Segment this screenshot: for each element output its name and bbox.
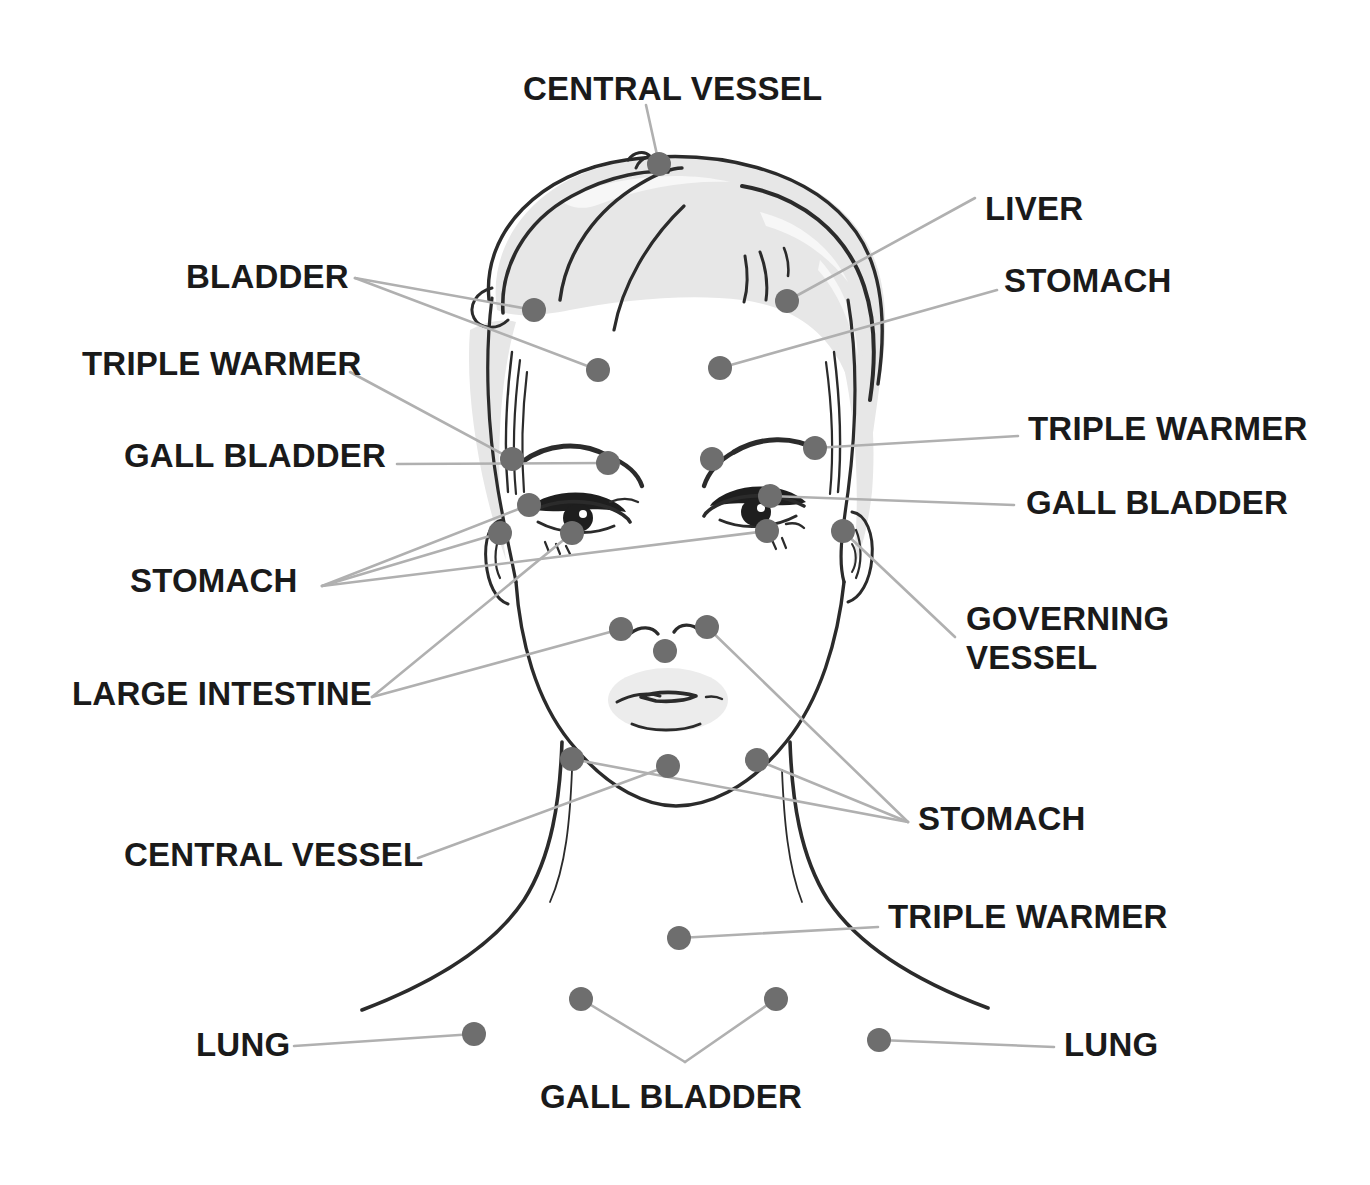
acupressure-point-dot[interactable] (700, 447, 724, 471)
acupressure-point-dot[interactable] (586, 358, 610, 382)
acupressure-point-dot[interactable] (764, 987, 788, 1011)
lips (608, 668, 728, 732)
acupressure-point-dot[interactable] (560, 747, 584, 771)
leader-line (707, 627, 908, 822)
acupressure-point-dot[interactable] (488, 521, 512, 545)
leader-line (685, 999, 776, 1062)
leader-line (372, 629, 621, 697)
leader-line (879, 1040, 1054, 1047)
acupressure-point-dot[interactable] (708, 356, 732, 380)
acupressure-point-dot[interactable] (695, 615, 719, 639)
acupressure-point-dot[interactable] (596, 451, 620, 475)
point-label-central-vessel-top: CENTRAL VESSEL (523, 70, 822, 109)
point-label-governing-vessel: GOVERNING VESSEL (966, 600, 1226, 678)
point-label-gall-bladder-bottom: GALL BLADDER (540, 1078, 802, 1117)
acupressure-point-dot[interactable] (560, 521, 584, 545)
acupressure-point-dot[interactable] (653, 639, 677, 663)
nose (631, 625, 700, 634)
acupressure-point-dot[interactable] (755, 519, 779, 543)
point-label-large-intestine: LARGE INTESTINE (72, 675, 372, 714)
leader-line (757, 760, 908, 822)
point-label-triple-warmer-left: TRIPLE WARMER (82, 345, 361, 384)
point-label-lung-left: LUNG (196, 1026, 290, 1065)
point-label-lung-right: LUNG (1064, 1026, 1158, 1065)
diagram-canvas: CENTRAL VESSELLIVERBLADDERSTOMACHTRIPLE … (0, 0, 1370, 1185)
acupressure-point-dot[interactable] (758, 484, 782, 508)
point-label-bladder: BLADDER (186, 258, 349, 297)
leader-line (679, 927, 878, 938)
acupressure-point-dot[interactable] (775, 289, 799, 313)
acupressure-point-dot[interactable] (517, 493, 541, 517)
leader-line (418, 766, 668, 858)
acupressure-point-dot[interactable] (462, 1022, 486, 1046)
point-label-triple-warmer-right: TRIPLE WARMER (1028, 410, 1307, 449)
acupressure-point-dot[interactable] (867, 1028, 891, 1052)
acupressure-point-dot[interactable] (745, 748, 769, 772)
acupressure-point-dot[interactable] (656, 754, 680, 778)
point-label-triple-warmer-chest: TRIPLE WARMER (888, 898, 1167, 937)
acupressure-point-dot[interactable] (569, 987, 593, 1011)
leader-line (322, 533, 500, 586)
point-label-gall-bladder-left: GALL BLADDER (124, 437, 386, 476)
leader-line (770, 496, 1014, 505)
point-label-stomach-upper-right: STOMACH (1004, 262, 1172, 301)
leader-line (843, 531, 955, 637)
neck-and-shoulders (362, 742, 988, 1010)
point-label-stomach-lower-right: STOMACH (918, 800, 1086, 839)
acupressure-point-dot[interactable] (803, 436, 827, 460)
point-label-stomach-left: STOMACH (130, 562, 298, 601)
acupressure-point-dot[interactable] (609, 617, 633, 641)
acupressure-point-dot[interactable] (667, 926, 691, 950)
point-label-liver: LIVER (985, 190, 1083, 229)
acupressure-point-dot[interactable] (522, 298, 546, 322)
point-label-central-vessel-neck: CENTRAL VESSEL (124, 836, 423, 875)
leader-line (372, 533, 572, 697)
leader-line (815, 436, 1018, 448)
acupressure-point-dot[interactable] (500, 447, 524, 471)
point-label-gall-bladder-right: GALL BLADDER (1026, 484, 1288, 523)
leader-line (294, 1034, 474, 1046)
leader-line (581, 999, 685, 1062)
acupressure-point-dot[interactable] (831, 519, 855, 543)
acupressure-point-dot[interactable] (647, 152, 671, 176)
